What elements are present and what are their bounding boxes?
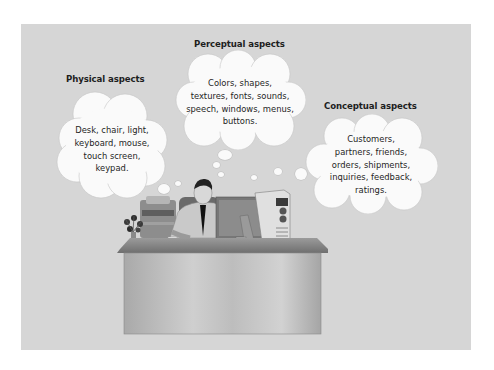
desk-scene-illustration bbox=[0, 0, 494, 370]
desk bbox=[117, 238, 328, 334]
printer bbox=[140, 196, 176, 238]
